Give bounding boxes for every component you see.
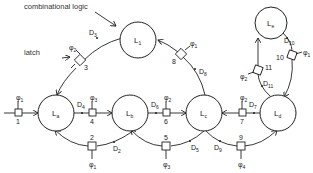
svg-text:φ1: φ1 bbox=[303, 49, 311, 58]
svg-text:φ3: φ3 bbox=[90, 94, 98, 103]
svg-text:3: 3 bbox=[84, 64, 88, 71]
latch-1: 1 φ1 bbox=[15, 94, 24, 125]
latch-6: 6 φ2 bbox=[163, 94, 172, 125]
delay-label-5: D5 bbox=[191, 144, 199, 153]
svg-text:9: 9 bbox=[239, 134, 243, 141]
svg-text:φ2: φ2 bbox=[69, 44, 77, 53]
edge-L1-3 bbox=[84, 38, 122, 60]
svg-text:φ3: φ3 bbox=[163, 161, 171, 170]
edge-8-L1 bbox=[158, 40, 178, 52]
edge-9-Ld bbox=[244, 130, 277, 146]
edge-10-Ld bbox=[284, 59, 292, 97]
delay-label-3: D3 bbox=[89, 29, 97, 38]
delay-label-6: D6 bbox=[151, 101, 159, 110]
latch-pointer bbox=[62, 57, 70, 58]
svg-text:2: 2 bbox=[90, 134, 94, 141]
svg-text:8: 8 bbox=[172, 58, 176, 65]
delay-dot-8 bbox=[194, 68, 196, 70]
delay-label-2: D2 bbox=[113, 145, 121, 154]
edge-2-La bbox=[55, 130, 88, 146]
node-Le: Le bbox=[255, 7, 287, 39]
edge-5-Lb bbox=[131, 130, 162, 146]
latch-7: 7 φ2 bbox=[239, 94, 248, 125]
node-Ld: Ld bbox=[260, 95, 296, 131]
delay-dot-2 bbox=[113, 141, 115, 143]
svg-text:10: 10 bbox=[276, 54, 284, 61]
svg-text:φ1: φ1 bbox=[190, 40, 198, 49]
latch-11: 11 φ2 bbox=[240, 64, 272, 82]
delay-dot-7 bbox=[253, 112, 255, 114]
svg-text:φ4: φ4 bbox=[238, 161, 246, 170]
combinational-logic-label: combinational logic bbox=[24, 2, 88, 11]
edge-3-La bbox=[57, 68, 76, 95]
delay-label-9: D9 bbox=[214, 144, 222, 153]
latch-10: 10 φ1 bbox=[276, 49, 311, 61]
svg-text:φ1: φ1 bbox=[16, 94, 24, 103]
combinational-logic-pointer bbox=[95, 12, 116, 26]
svg-text:φ2: φ2 bbox=[240, 73, 248, 82]
delay-dot-4 bbox=[81, 112, 83, 114]
latch-3: 3 φ2 bbox=[69, 44, 88, 71]
edge-Lb-2 bbox=[97, 131, 133, 146]
svg-text:φ2: φ2 bbox=[164, 94, 172, 103]
node-Lc: Lc bbox=[186, 95, 222, 131]
svg-text:6: 6 bbox=[164, 118, 168, 125]
latch-2: 2 φ1 bbox=[88, 134, 97, 170]
edge-Lc-9 bbox=[206, 131, 237, 146]
delay-label-11: D11 bbox=[263, 80, 273, 89]
svg-text:7: 7 bbox=[240, 118, 244, 125]
edge-Lc-5 bbox=[171, 131, 204, 146]
svg-text:φ1: φ1 bbox=[89, 161, 97, 170]
node-Lb: Lb bbox=[112, 95, 148, 131]
delay-dot-5 bbox=[189, 140, 191, 142]
delay-label-4: D4 bbox=[77, 101, 85, 110]
latch-diagram: La Lb Lc Ld Le L1 1 φ1 4 φ3 6 φ2 bbox=[0, 0, 313, 173]
node-La: La bbox=[38, 95, 74, 131]
latch-label: latch bbox=[24, 48, 40, 57]
latch-9: 9 φ4 bbox=[237, 134, 246, 170]
svg-text:11: 11 bbox=[265, 64, 272, 71]
svg-text:φ2: φ2 bbox=[240, 94, 248, 103]
svg-text:1: 1 bbox=[16, 118, 20, 125]
latch-4: 4 φ3 bbox=[89, 94, 98, 125]
delay-label-10: D10 bbox=[284, 37, 295, 46]
edge-Lc-8 bbox=[183, 57, 205, 95]
latch-8: 8 φ1 bbox=[172, 40, 198, 65]
delay-dot-6 bbox=[155, 112, 157, 114]
delay-label-8: D8 bbox=[199, 68, 207, 77]
latch-5: 5 φ3 bbox=[162, 134, 171, 170]
delay-dot-9 bbox=[219, 140, 221, 142]
node-L1: L1 bbox=[120, 22, 156, 58]
delay-label-7: D7 bbox=[249, 101, 257, 110]
svg-text:4: 4 bbox=[90, 118, 94, 125]
svg-text:5: 5 bbox=[164, 134, 168, 141]
